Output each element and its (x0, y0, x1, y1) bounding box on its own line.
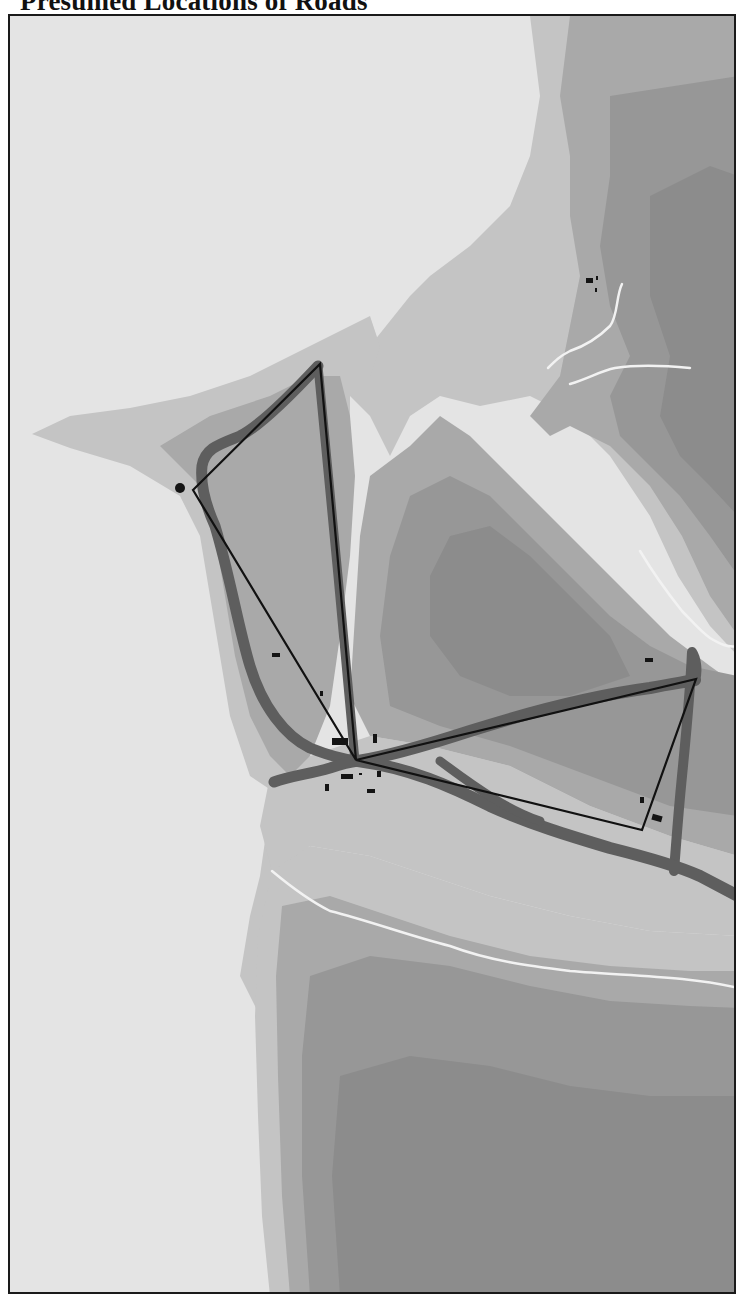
west-marker (175, 483, 185, 493)
building (640, 797, 644, 803)
building (377, 771, 381, 777)
building (332, 738, 348, 745)
building (359, 773, 362, 775)
building (373, 734, 377, 743)
building (341, 774, 353, 779)
building (367, 789, 375, 793)
building (645, 658, 653, 662)
building (586, 278, 593, 283)
building (596, 276, 598, 280)
building (320, 691, 323, 696)
building (272, 653, 280, 657)
building (595, 288, 597, 292)
building (325, 784, 329, 791)
terrain-map (10, 16, 736, 1294)
map-frame (8, 14, 736, 1294)
